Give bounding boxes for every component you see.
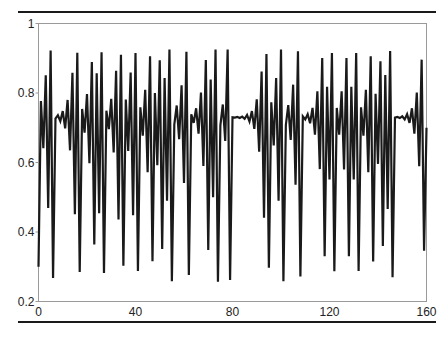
data-series-line	[39, 50, 427, 282]
x-tick-label: 160	[416, 305, 436, 319]
y-tick-label: 0.8	[18, 86, 35, 100]
x-tick-label: 40	[129, 305, 143, 319]
y-tick-label: 0.6	[18, 156, 35, 170]
x-tick-label: 120	[319, 305, 339, 319]
y-tick-label: 0.4	[18, 225, 35, 239]
x-tick-label: 80	[226, 305, 240, 319]
x-axis: 04080120160	[35, 305, 437, 319]
y-tick-label: 1	[28, 17, 35, 31]
line-chart: 0.20.40.60.81 04080120160	[0, 0, 447, 338]
y-tick-label: 0.2	[18, 295, 35, 309]
y-axis: 0.20.40.60.81	[18, 17, 39, 309]
x-tick-label: 0	[35, 305, 42, 319]
